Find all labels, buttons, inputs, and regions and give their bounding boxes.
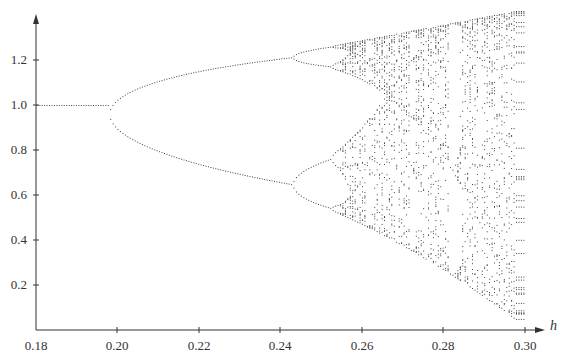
x-axis-arrow-icon xyxy=(535,327,545,333)
x-axis-label: h xyxy=(550,318,557,333)
x-tick-label: 0.28 xyxy=(432,338,455,353)
x-tick-label: 0.22 xyxy=(188,338,211,353)
y-tick-label: 0.4 xyxy=(11,232,28,247)
x-tick-label: 0.20 xyxy=(106,338,129,353)
data-points xyxy=(37,11,525,320)
y-axis-arrow-icon xyxy=(33,14,39,24)
y-tick-label: 1.2 xyxy=(11,52,27,67)
y-ticks: 0.2 0.4 0.6 0.8 1.0 1.2 xyxy=(11,52,39,292)
x-tick-label: 0.26 xyxy=(351,338,374,353)
x-ticks: 0.18 0.20 0.22 0.24 0.26 0.28 0.30 xyxy=(25,327,537,353)
y-tick-label: 0.8 xyxy=(11,142,27,157)
x-tick-label: 0.24 xyxy=(269,338,292,353)
bifurcation-chart: 0.18 0.20 0.22 0.24 0.26 0.28 0.30 h 0.2… xyxy=(0,0,568,357)
y-tick-label: 1.0 xyxy=(11,97,27,112)
x-tick-label: 0.30 xyxy=(514,338,537,353)
y-tick-label: 0.2 xyxy=(11,277,27,292)
x-tick-label: 0.18 xyxy=(25,338,48,353)
y-tick-label: 0.6 xyxy=(11,187,28,202)
